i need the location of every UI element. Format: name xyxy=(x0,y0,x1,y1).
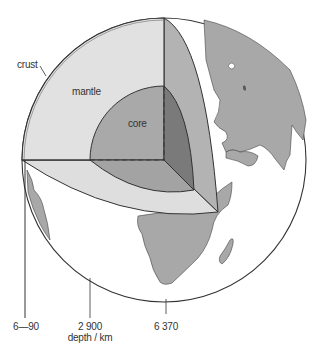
label-mantle: mantle xyxy=(72,86,101,97)
crust-leader-line xyxy=(40,66,46,76)
tick-label-core-depth: 2 900 xyxy=(78,321,102,332)
tick-label-center-depth: 6 370 xyxy=(154,321,178,332)
depth-axis-label: depth / km xyxy=(68,332,113,343)
label-crust: crust xyxy=(17,59,38,70)
tick-label-crust-depth: 6—90 xyxy=(13,321,39,332)
earth-cutaway-diagram xyxy=(0,0,320,351)
label-core: core xyxy=(128,118,147,129)
